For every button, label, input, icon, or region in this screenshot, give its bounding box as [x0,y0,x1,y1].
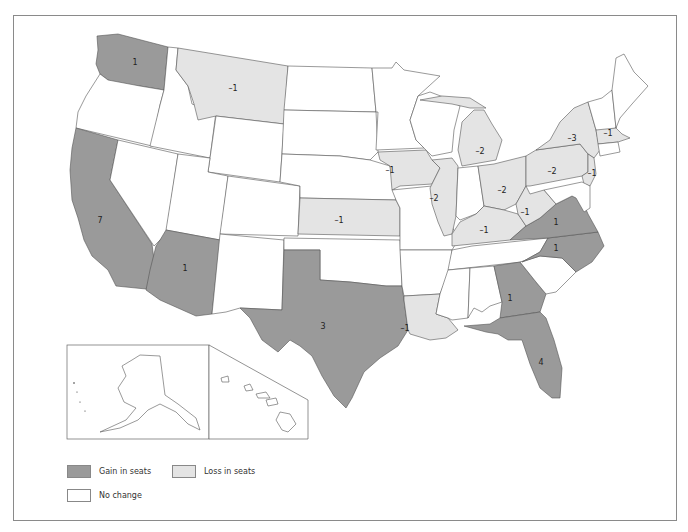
state-NM [212,234,284,314]
legend: Gain in seats Loss in seats No change [67,465,287,517]
label-MT: –1 [228,84,237,93]
label-WV: –1 [520,208,529,217]
legend-item-gain: Gain in seats [67,465,151,478]
loss-swatch [172,465,196,478]
label-LA: –1 [400,324,409,333]
state-FL [464,312,562,398]
gain-swatch [67,465,91,478]
inset-alaska [67,345,209,439]
legend-item-loss: Loss in seats [172,465,255,478]
label-WA: 1 [132,58,137,67]
label-FL: 4 [538,358,543,367]
legend-label-no-change: No change [99,491,142,500]
state-CT-RI [598,142,620,156]
state-CO [220,176,300,236]
legend-label-loss: Loss in seats [204,467,255,476]
label-GA: 1 [507,294,512,303]
inset-hawaii [209,345,308,439]
label-OH: –2 [497,186,506,195]
label-NC: 1 [553,244,558,253]
state-WY [208,116,284,182]
label-TX: 3 [320,322,325,331]
state-MA [596,128,630,144]
label-IA: –1 [385,166,394,175]
label-IL: –2 [429,194,438,203]
state-ME [612,54,648,128]
no-change-swatch [67,489,91,502]
label-KY: –1 [479,226,488,235]
us-map: 1 7 1 3 1 4 1 1 –1 –1 –1 –2 –2 –2 –1 –1 … [0,0,688,532]
label-AZ: 1 [182,264,187,273]
legend-label-gain: Gain in seats [99,467,151,476]
state-SD [282,110,378,160]
label-CA: 7 [97,216,102,225]
state-ND [284,66,376,112]
label-NY: –3 [567,134,576,143]
label-PA: –2 [547,167,556,176]
label-NJ: –1 [587,169,596,178]
state-PA [526,144,588,186]
state-KS [298,198,400,236]
legend-item-no-change: No change [67,489,142,502]
label-KS: –1 [334,216,343,225]
label-MA: –1 [603,129,612,138]
label-VA: 1 [553,218,558,227]
label-MI: –2 [475,147,484,156]
